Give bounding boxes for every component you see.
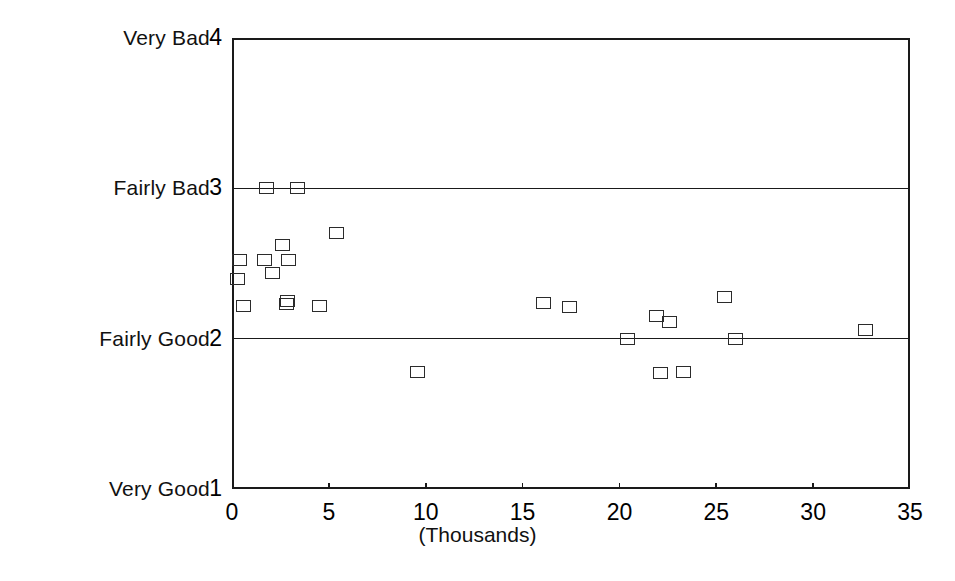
data-point xyxy=(259,182,274,194)
y-tick-label-2: 2 xyxy=(196,327,222,350)
data-point xyxy=(275,239,290,251)
y-category-label: Very Good xyxy=(109,478,210,499)
data-point xyxy=(257,254,272,266)
data-point xyxy=(281,254,296,266)
data-point xyxy=(312,300,327,312)
data-point xyxy=(410,366,425,378)
data-point xyxy=(290,182,305,194)
data-point xyxy=(662,316,677,328)
data-point xyxy=(728,333,743,345)
data-point xyxy=(232,254,247,266)
data-point xyxy=(717,291,732,303)
data-point xyxy=(620,333,635,345)
x-tick-label-15: 15 xyxy=(503,501,543,524)
y-tick-label-1: 1 xyxy=(196,477,222,500)
data-point xyxy=(562,301,577,313)
x-tick-label-30: 30 xyxy=(793,501,833,524)
x-tick-label-35: 35 xyxy=(890,501,930,524)
data-point xyxy=(676,366,691,378)
data-point xyxy=(653,367,668,379)
x-tick-label-10: 10 xyxy=(406,501,446,524)
data-point xyxy=(329,227,344,239)
x-tick-label-25: 25 xyxy=(696,501,736,524)
data-point xyxy=(236,300,251,312)
data-point xyxy=(230,273,245,285)
x-tick-label-5: 5 xyxy=(309,501,349,524)
x-axis-label: (Thousands) xyxy=(0,524,955,546)
data-point xyxy=(858,324,873,336)
y-category-label: Fairly Good xyxy=(99,328,210,349)
data-point xyxy=(536,297,551,309)
x-tick-label-0: 0 xyxy=(212,501,252,524)
axes-and-gridlines xyxy=(232,38,910,489)
plot-area xyxy=(232,38,910,489)
x-tick-label-20: 20 xyxy=(599,501,639,524)
y-tick-label-4: 4 xyxy=(196,26,222,49)
y-category-label-group: Very BadFairly BadFairly GoodVery Good xyxy=(36,0,210,581)
data-point xyxy=(280,295,295,307)
scatter-chart-figure: Very BadFairly BadFairly GoodVery Good 1… xyxy=(0,0,955,581)
data-point xyxy=(265,267,280,279)
y-tick-label-3: 3 xyxy=(196,176,222,199)
